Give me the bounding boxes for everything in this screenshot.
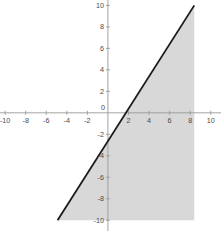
y-tick-label: -10 <box>94 216 104 225</box>
x-tick-label: 8 <box>188 116 192 125</box>
x-tick-label: -4 <box>64 116 70 125</box>
x-tick-label: -2 <box>84 116 90 125</box>
y-tick-label: -8 <box>98 194 104 203</box>
y-tick-label: -4 <box>98 151 104 160</box>
coordinate-plot: -10-8-6-4-20246810 108642-2-4-6-8-10 <box>0 0 221 231</box>
graph-canvas: -10-8-6-4-20246810 108642-2-4-6-8-10 <box>0 0 221 231</box>
y-tick-label: 4 <box>100 65 104 74</box>
y-tick-label: 6 <box>100 44 104 53</box>
x-tick-label: -10 <box>0 116 10 125</box>
y-tick-label: -6 <box>98 173 104 182</box>
x-tick-label: 2 <box>126 116 130 125</box>
x-tick-label: 6 <box>168 116 172 125</box>
x-tick-label: 4 <box>147 116 151 125</box>
y-tick-label: 10 <box>96 1 104 10</box>
x-tick-label: 10 <box>207 116 215 125</box>
y-tick-label: -2 <box>98 130 104 139</box>
x-tick-label: -6 <box>43 116 49 125</box>
x-tick-label: -8 <box>22 116 28 125</box>
x-tick-label: 0 <box>101 103 105 112</box>
y-tick-label: 2 <box>100 87 104 96</box>
y-tick-label: 8 <box>100 22 104 31</box>
